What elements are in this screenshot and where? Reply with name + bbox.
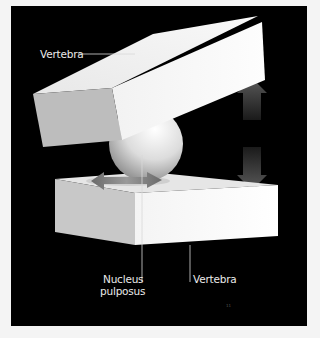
label-bottom-vertebra: Vertebra bbox=[193, 273, 237, 285]
label-top-vertebra: Vertebra bbox=[40, 48, 84, 60]
page-number: 11 bbox=[226, 303, 231, 308]
upper-vertebra-block bbox=[33, 16, 265, 147]
label-nucleus-line1: Nucleus bbox=[103, 273, 139, 285]
vertical-compression-arrows bbox=[237, 78, 267, 190]
lower-vertebra-block bbox=[55, 172, 278, 245]
label-nucleus-line2: pulposus bbox=[100, 285, 139, 297]
